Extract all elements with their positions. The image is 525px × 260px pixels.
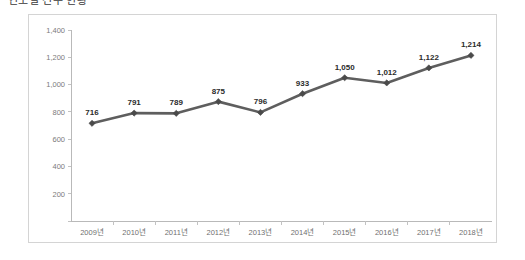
y-tick-label: 400 <box>52 162 65 171</box>
series-line <box>92 55 471 123</box>
data-point-label: 933 <box>296 79 310 88</box>
data-point-label: 1,214 <box>461 40 482 49</box>
line-chart: 1,4001,2001,000800600400200 2009년2010년20… <box>29 15 496 242</box>
data-point-label: 1,050 <box>335 63 356 72</box>
x-tick-label: 2012년 <box>207 227 231 237</box>
x-tick-label: 2016년 <box>375 227 399 237</box>
data-point-marker <box>426 65 432 71</box>
x-tick-label: 2010년 <box>122 227 146 237</box>
marker-group <box>89 52 474 126</box>
data-point-marker <box>89 120 95 126</box>
series-group <box>92 55 471 123</box>
x-tick-group: 2009년2010년2011년2012년2013년2014년2015년2016년… <box>80 221 483 237</box>
y-tick-label: 1,000 <box>46 80 65 89</box>
data-point-label: 875 <box>212 87 226 96</box>
data-point-label: 791 <box>127 98 141 107</box>
page-title: 연도별 건수 현황 <box>8 0 87 7</box>
y-tick-label: 1,400 <box>46 26 65 35</box>
x-tick-label: 2011년 <box>165 227 188 237</box>
x-tick-label: 2017년 <box>417 227 441 237</box>
y-tick-label: 800 <box>52 108 65 117</box>
data-point-marker <box>173 110 179 116</box>
data-point-label: 1,012 <box>377 68 398 77</box>
data-point-marker <box>215 99 221 105</box>
y-tick-label: 600 <box>52 135 65 144</box>
data-point-marker <box>384 80 390 86</box>
y-tick-label: 1,200 <box>46 53 65 62</box>
data-point-marker <box>468 52 474 58</box>
data-point-label: 796 <box>254 97 268 106</box>
data-point-label: 716 <box>85 108 99 117</box>
x-tick-label: 2014년 <box>291 227 315 237</box>
point-label-group: 7167917898757969331,0501,0121,1221,214 <box>85 40 481 117</box>
x-tick-label: 2018년 <box>459 227 483 237</box>
y-tick-label: 200 <box>52 190 65 199</box>
chart-frame: 1,4001,2001,000800600400200 2009년2010년20… <box>28 14 497 243</box>
data-point-marker <box>131 110 137 116</box>
x-tick-label: 2009년 <box>80 227 104 237</box>
data-point-label: 1,122 <box>419 53 440 62</box>
data-point-label: 789 <box>170 98 184 107</box>
x-tick-label: 2015년 <box>333 227 357 237</box>
x-tick-label: 2013년 <box>249 227 273 237</box>
y-tick-group: 1,4001,2001,000800600400200 <box>46 26 71 221</box>
